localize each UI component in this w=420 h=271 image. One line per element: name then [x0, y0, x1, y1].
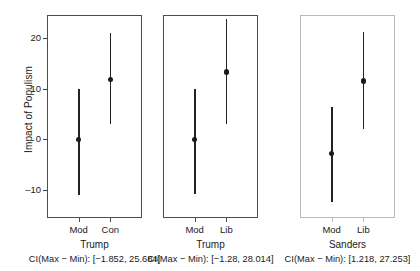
x-axis-tick-label: Mod [69, 225, 87, 235]
x-axis-tick-mark [332, 218, 333, 222]
populism-impact-figure: Impact of Populism 20100–10 ModConTrumpC… [0, 0, 420, 271]
x-axis-tick-label: Con [102, 225, 119, 235]
x-axis-tick-mark [110, 218, 111, 222]
panel-group-label: Trump [80, 239, 109, 250]
plot-panel [47, 15, 142, 218]
panel-ci-caption: CI(Max − Min): [−1.28, 28.014] [147, 254, 273, 264]
estimate-point [361, 78, 366, 83]
panel-ci-caption: CI(Max − Min): [−1.852, 25.684] [29, 254, 160, 264]
plot-panel [163, 15, 258, 218]
x-axis-tick-mark [226, 218, 227, 222]
x-axis-tick-label: Lib [357, 225, 370, 235]
y-axis-tick-label: 20 [15, 33, 41, 43]
y-axis-tick-label: –10 [15, 185, 41, 195]
y-axis-label: Impact of Populism [23, 25, 34, 195]
panel-group-label: Sanders [329, 239, 366, 250]
panel-group-label: Trump [196, 239, 225, 250]
y-axis-tick-label: 0 [15, 134, 41, 144]
x-axis-tick-mark [195, 218, 196, 222]
x-axis-tick-label: Lib [220, 225, 233, 235]
y-axis-tick-label: 10 [15, 84, 41, 94]
panel-ci-caption: CI(Max − Min): [1.218, 27.253] [285, 254, 411, 264]
x-axis-tick-label: Mod [185, 225, 203, 235]
x-axis-tick-mark [363, 218, 364, 222]
x-axis-tick-label: Mod [322, 225, 340, 235]
estimate-point [224, 69, 229, 74]
x-axis-tick-mark [79, 218, 80, 222]
plot-panel [300, 15, 395, 218]
